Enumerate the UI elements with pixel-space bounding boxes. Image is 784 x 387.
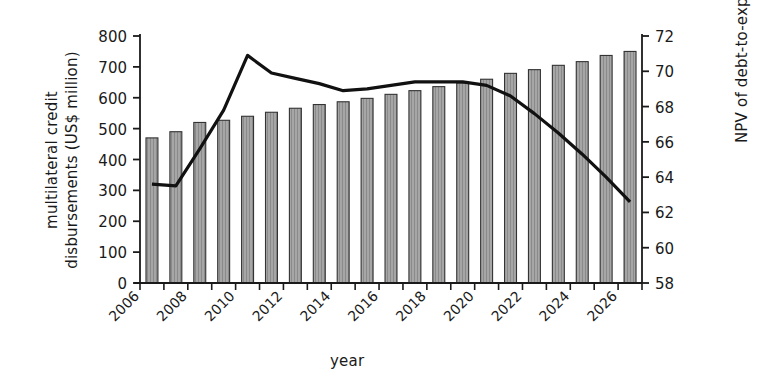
x-tick-label: 2022 bbox=[488, 288, 525, 325]
bar bbox=[624, 51, 636, 283]
y-tick-label-right: 62 bbox=[655, 204, 674, 222]
bar bbox=[505, 73, 517, 283]
x-tick-label: 2012 bbox=[249, 288, 286, 325]
bar bbox=[600, 55, 612, 283]
x-tick-label: 2018 bbox=[393, 288, 430, 325]
bar bbox=[481, 79, 493, 283]
bar bbox=[313, 105, 325, 283]
x-tick-label-group: 2008 bbox=[153, 288, 190, 325]
y-tick-label-right: 70 bbox=[655, 63, 674, 81]
y-axis-right-title: NPV of debt-to-export ratio bbox=[733, 0, 751, 174]
x-tick-label-group: 2018 bbox=[393, 288, 430, 325]
y-tick-label-right: 66 bbox=[655, 134, 674, 152]
chart-figure: multilateral credit disbursements (US$ m… bbox=[0, 0, 784, 387]
bar bbox=[552, 65, 564, 283]
bar bbox=[218, 120, 230, 283]
x-tick-label: 2006 bbox=[106, 288, 143, 325]
x-tick-label: 2016 bbox=[345, 288, 382, 325]
bar bbox=[337, 102, 349, 283]
y-tick-label-left: 300 bbox=[98, 182, 127, 200]
bar bbox=[528, 70, 540, 283]
bar bbox=[289, 108, 301, 283]
bar bbox=[266, 112, 278, 283]
x-tick-label-group: 2006 bbox=[106, 288, 143, 325]
y-tick-label-right: 68 bbox=[655, 99, 674, 117]
x-tick-label: 2026 bbox=[584, 288, 621, 325]
y-tick-label-left: 400 bbox=[98, 152, 127, 170]
x-tick-label-group: 2010 bbox=[201, 288, 238, 325]
x-tick-label-group: 2020 bbox=[440, 288, 477, 325]
y-tick-label-right: 58 bbox=[655, 275, 674, 293]
x-tick-label-group: 2016 bbox=[345, 288, 382, 325]
x-tick-label-group: 2012 bbox=[249, 288, 286, 325]
plot-area: 0100200300400500600700800586062646668707… bbox=[0, 0, 784, 387]
y-tick-label-left: 0 bbox=[117, 275, 127, 293]
y-tick-label-left: 100 bbox=[98, 244, 127, 262]
bar bbox=[242, 116, 254, 283]
y-tick-label-right: 72 bbox=[655, 28, 674, 46]
y-tick-label-right: 60 bbox=[655, 240, 674, 258]
y-tick-label-left: 600 bbox=[98, 90, 127, 108]
bar bbox=[409, 91, 421, 283]
x-tick-label-group: 2022 bbox=[488, 288, 525, 325]
x-tick-label-group: 2014 bbox=[297, 288, 334, 325]
y-tick-label-right: 64 bbox=[655, 169, 674, 187]
x-tick-label: 2010 bbox=[201, 288, 238, 325]
bar bbox=[385, 94, 397, 283]
bar bbox=[170, 132, 182, 283]
x-tick-label: 2024 bbox=[536, 288, 573, 325]
bar bbox=[361, 98, 373, 283]
bar bbox=[433, 87, 445, 283]
bar bbox=[576, 62, 588, 283]
y-tick-label-left: 700 bbox=[98, 59, 127, 77]
y-tick-label-left: 200 bbox=[98, 213, 127, 231]
x-tick-label-group: 2024 bbox=[536, 288, 573, 325]
y-tick-label-left: 800 bbox=[98, 28, 127, 46]
bar bbox=[457, 83, 469, 283]
x-tick-label: 2020 bbox=[440, 288, 477, 325]
x-tick-label: 2008 bbox=[153, 288, 190, 325]
x-tick-label: 2014 bbox=[297, 288, 334, 325]
bar bbox=[146, 138, 158, 283]
y-axis-left-title: multilateral credit disbursements (US$ m… bbox=[42, 35, 82, 285]
y-tick-label-left: 500 bbox=[98, 121, 127, 139]
x-axis-title: year bbox=[330, 352, 364, 370]
x-tick-label-group: 2026 bbox=[584, 288, 621, 325]
